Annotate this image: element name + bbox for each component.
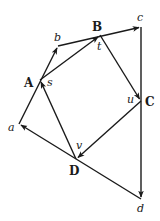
- label-point-d: d: [137, 202, 144, 215]
- edge-d-a: [21, 125, 141, 199]
- label-point-C: C: [145, 95, 155, 109]
- label-point-A: A: [23, 76, 34, 90]
- label-point-c: c: [137, 11, 143, 24]
- edge-C-D: [78, 101, 141, 158]
- outer-quadrilateral: [19, 27, 141, 199]
- inner-quadrilateral: [40, 35, 141, 159]
- label-midpoint-s: s: [47, 76, 53, 89]
- quadrilateral-vector-diagram: a b c d A B C D s t u v: [0, 0, 160, 221]
- label-point-B: B: [92, 20, 102, 34]
- label-midpoint-v: v: [76, 139, 83, 152]
- label-midpoint-u: u: [127, 93, 134, 106]
- label-point-D: D: [69, 164, 79, 178]
- label-midpoint-t: t: [97, 40, 102, 53]
- edge-B-C: [100, 35, 140, 99]
- label-point-b: b: [54, 31, 61, 44]
- label-point-a: a: [8, 121, 15, 134]
